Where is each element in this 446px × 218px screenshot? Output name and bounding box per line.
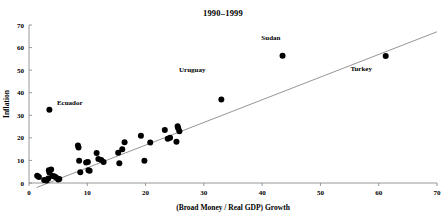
y-tick-label: 60 (17, 44, 25, 52)
data-point (56, 176, 62, 182)
data-point (101, 159, 107, 165)
data-point (77, 169, 83, 175)
y-axis-title: Inflation (2, 89, 11, 118)
data-point (87, 168, 93, 174)
regression-line (37, 32, 437, 188)
data-point (119, 146, 125, 152)
data-point-label: Turkey (350, 65, 372, 73)
y-axis-ticks: 010203040506070 (17, 22, 32, 188)
y-tick-label: 30 (17, 112, 25, 120)
data-point (76, 158, 82, 164)
data-point (383, 53, 389, 59)
y-tick-label: 20 (17, 134, 25, 142)
trend-line (37, 32, 437, 188)
x-tick-label: 0 (27, 189, 31, 197)
y-tick-label: 0 (21, 180, 25, 188)
data-point (173, 139, 179, 145)
data-point-label: Ecuador (57, 99, 83, 107)
data-point-label: Sudan (261, 34, 280, 42)
x-axis-title: (Broad Money / Real GDP) Growth (176, 203, 291, 212)
x-tick-label: 40 (259, 189, 267, 197)
data-point (138, 133, 144, 139)
data-point (176, 128, 182, 134)
data-point (94, 150, 100, 156)
data-point (162, 127, 168, 133)
axes (29, 25, 437, 183)
x-tick-label: 10 (84, 189, 92, 197)
plot-area: 010203040506070 010203040506070 EcuadorU… (0, 0, 446, 218)
data-point (46, 107, 52, 113)
x-tick-label: 20 (142, 189, 150, 197)
scatter-chart-figure: 1990–1999 010203040506070 01020304050607… (0, 0, 446, 218)
x-axis-ticks: 010203040506070 (27, 183, 441, 197)
x-tick-label: 30 (200, 189, 208, 197)
data-point (141, 158, 147, 164)
x-tick-label: 50 (317, 189, 325, 197)
data-point (76, 145, 82, 151)
data-point (147, 140, 153, 146)
y-tick-label: 40 (17, 89, 25, 97)
point-annotations: EcuadorUruguaySudanTurkey (57, 34, 373, 107)
data-point (48, 166, 54, 172)
data-point (85, 159, 91, 165)
data-point (116, 160, 122, 166)
y-tick-label: 10 (17, 157, 25, 165)
x-tick-label: 60 (375, 189, 383, 197)
data-point (218, 96, 224, 102)
data-points (34, 53, 389, 184)
x-tick-label: 70 (434, 189, 442, 197)
data-point-label: Uruguay (179, 66, 206, 74)
data-point (36, 174, 42, 180)
y-tick-label: 70 (17, 22, 25, 30)
y-tick-label: 50 (17, 67, 25, 75)
data-point (280, 53, 286, 59)
data-point (167, 135, 173, 141)
data-point (122, 139, 128, 145)
